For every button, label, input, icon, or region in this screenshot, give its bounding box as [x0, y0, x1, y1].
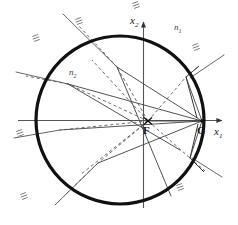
hatch-mark-icon [32, 34, 40, 41]
dashed-ray [148, 77, 186, 121]
hatch-mark-icon [176, 183, 184, 190]
hatch-mark-icon [16, 129, 24, 136]
point-label-F: F [143, 125, 150, 136]
hatch-mark-icon [132, 1, 140, 8]
dashed-ray [78, 25, 117, 67]
figure-canvas: x2 x1 n1 n2 F G [0, 0, 238, 225]
n1-label-subscript: 1 [179, 28, 182, 34]
x2-axis-label-subscript: 2 [135, 21, 139, 29]
hatch-mark-icon [75, 17, 83, 24]
n2-region-label: n2 [69, 68, 77, 79]
point-label-G: G [197, 125, 206, 136]
hatch-mark-icon [20, 192, 28, 199]
solid-ray [98, 121, 202, 163]
optics-diagram-svg [0, 0, 238, 225]
solid-ray [60, 121, 202, 130]
dashed-ray [148, 121, 190, 158]
x1-axis-label-subscript: 1 [219, 132, 223, 140]
x1-axis-label: x1 [214, 126, 222, 140]
hatch-mark-group [16, 1, 200, 199]
x2-axis-label: x2 [130, 15, 138, 29]
point-marker-G [200, 119, 204, 123]
external-ray-group [14, 14, 224, 205]
hatch-mark-icon [192, 43, 200, 50]
n1-region-label: n1 [174, 23, 182, 34]
dashed-ray [80, 121, 148, 175]
external-ray [190, 55, 224, 78]
external-ray [192, 158, 222, 177]
n2-label-subscript: 2 [74, 73, 77, 79]
